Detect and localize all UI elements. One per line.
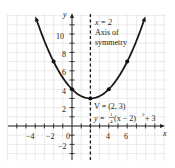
parabola-figure: x y −4 −2 0 4 6 10 8 6 4 2 −2 x = 2 Axis… [0, 0, 175, 168]
axis-of-label: Axis of [95, 28, 119, 37]
axis-equation-text: x = 2 [94, 18, 112, 27]
equation-numerator: 1 [110, 112, 113, 117]
equation-tail: + 3 [145, 114, 156, 123]
y-tick-label: 2 [62, 105, 66, 114]
x-tick-label: −2 [46, 132, 55, 141]
x-tick-label: 4 [106, 132, 110, 141]
x-tick-label: −4 [26, 132, 35, 141]
eq-y: y = [93, 114, 105, 123]
equation-prefix: y = [93, 114, 105, 123]
axis-equation-label: x = 2 [94, 18, 112, 27]
equation-label: y = 1 4 (x − 2) 2 + 3 [93, 112, 156, 124]
x-axis-label: x [162, 129, 167, 138]
y-tick-label: −2 [58, 142, 67, 151]
y-tick-label: 8 [62, 50, 66, 59]
curve-point [88, 96, 92, 100]
equation-denominator: 4 [110, 119, 113, 124]
y-axis-label: y [62, 10, 67, 19]
vertex-label: V = (2, 3) [94, 102, 126, 111]
curve-point [107, 87, 111, 91]
curve-arrow-left-icon [35, 16, 39, 21]
origin-label: 0 [66, 132, 70, 141]
y-tick-label: 4 [62, 87, 66, 96]
parabola-chart: x y −4 −2 0 4 6 10 8 6 4 2 −2 x = 2 Axis… [0, 0, 175, 168]
symmetry-label: symmetry [95, 38, 127, 47]
y-tick-label: 10 [56, 32, 64, 41]
equation-body: (x − 2) [114, 114, 136, 123]
curve-arrow-right-icon [142, 16, 146, 21]
curve-point [52, 60, 56, 64]
curve-point [125, 60, 129, 64]
y-tick-label: 6 [62, 68, 66, 77]
curve-point [70, 87, 74, 91]
x-tick-label: 6 [124, 132, 128, 141]
